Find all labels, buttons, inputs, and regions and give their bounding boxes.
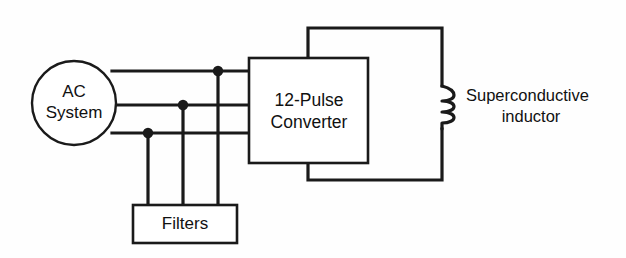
ac-system-label-line1: AC [62,82,86,101]
inductor-coil-icon [442,86,454,129]
converter-label-line1: 12-Pulse [274,90,343,110]
schematic-diagram: AC System 12-Pulse Converter Filters Sup… [0,0,626,258]
inductor-label-line1: Superconductive [466,86,589,104]
ac-system-label-line2: System [46,103,103,122]
converter-label-line2: Converter [271,112,348,132]
junction-phase-c [143,128,153,138]
filters-label: Filters [162,214,208,233]
converter-block [249,58,368,163]
inductor-label-line2: inductor [502,107,561,125]
filter-tap-lines [148,71,218,206]
junction-phase-b [178,100,188,110]
schematic-canvas: AC System 12-Pulse Converter Filters Sup… [0,0,626,258]
junction-phase-a [213,66,223,76]
